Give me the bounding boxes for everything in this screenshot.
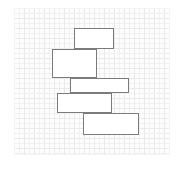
rectangle-3[interactable] [70, 78, 129, 93]
rectangle-5[interactable] [83, 113, 139, 135]
rectangle-2[interactable] [52, 49, 97, 78]
shape-stack [14, 8, 170, 155]
screenshot-root [0, 0, 185, 169]
grid-canvas[interactable] [14, 8, 170, 155]
rectangle-1[interactable] [74, 28, 114, 49]
rectangle-4[interactable] [57, 93, 112, 113]
